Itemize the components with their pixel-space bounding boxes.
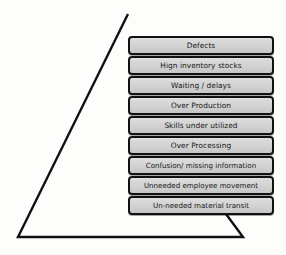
waste-box-skills-under-utilized[interactable]: Skills under utilized xyxy=(128,116,274,135)
diagram-canvas: Defects Hign inventory stocks Waiting / … xyxy=(0,0,286,255)
waste-box-un-needed-material-transit[interactable]: Un-needed material transit xyxy=(128,196,274,215)
waste-box-defects[interactable]: Defects xyxy=(128,36,274,55)
waste-box-label: Skills under utilized xyxy=(164,122,237,130)
waste-box-label: Un-needed material transit xyxy=(153,202,249,210)
waste-box-label: Defects xyxy=(187,42,216,50)
waste-box-label: Over Processing xyxy=(171,142,231,150)
waste-box-stack: Defects Hign inventory stocks Waiting / … xyxy=(128,36,274,216)
waste-box-over-processing[interactable]: Over Processing xyxy=(128,136,274,155)
waste-box-unneeded-employee-movement[interactable]: Unneeded employee movement xyxy=(128,176,274,195)
waste-box-high-inventory-stocks[interactable]: Hign inventory stocks xyxy=(128,56,274,75)
waste-box-label: Waiting / delays xyxy=(171,82,231,90)
waste-box-label: Unneeded employee movement xyxy=(144,182,258,190)
waste-box-waiting-delays[interactable]: Waiting / delays xyxy=(128,76,274,95)
waste-box-label: Hign inventory stocks xyxy=(160,62,241,70)
waste-box-over-production[interactable]: Over Production xyxy=(128,96,274,115)
waste-box-label: Over Production xyxy=(171,102,231,110)
waste-box-confusion-missing-information[interactable]: Confusion/ missing information xyxy=(128,156,274,175)
waste-box-label: Confusion/ missing information xyxy=(146,162,256,170)
